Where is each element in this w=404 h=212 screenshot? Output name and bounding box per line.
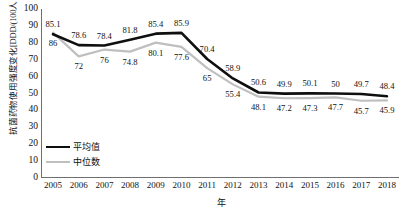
y-tick-label: 10 (12, 156, 38, 166)
y-tick-label: 60 (12, 72, 38, 82)
data-label-median: 77.6 (164, 53, 198, 62)
y-tick-label: 70 (12, 55, 38, 65)
x-axis-title: 年 (42, 196, 400, 209)
data-label-median: 74.8 (113, 58, 147, 67)
legend-line-mean-icon (46, 146, 70, 148)
data-label-median: 45.9 (370, 106, 404, 115)
antibiotic-use-intensity-line-chart: 抗菌药物使用强度变化[DDD/(100人·d)] 010203040506070… (0, 0, 404, 212)
data-label-mean: 85.1 (36, 20, 70, 29)
data-label-mean: 48.4 (370, 82, 404, 91)
data-label-median: 65 (190, 74, 224, 83)
data-label-mean: 58.9 (216, 64, 250, 73)
chart-legend: 平均值 中位数 (46, 139, 100, 169)
x-tick-label: 2018 (367, 180, 404, 190)
y-tick-label: 100 (12, 4, 38, 14)
y-tick-label: 80 (12, 38, 38, 48)
y-tick-label: 30 (12, 122, 38, 132)
y-tick-label: 50 (12, 89, 38, 99)
data-label-median: 55.4 (216, 90, 250, 99)
legend-item-median: 中位数 (46, 154, 100, 169)
data-label-median: 86 (36, 39, 70, 48)
y-tick-label: 20 (12, 139, 38, 149)
y-tick-label: 40 (12, 105, 38, 115)
legend-label-mean: 平均值 (73, 140, 100, 153)
y-tick-label: 90 (12, 21, 38, 31)
legend-line-median-icon (46, 161, 70, 163)
legend-label-median: 中位数 (73, 155, 100, 168)
legend-item-mean: 平均值 (46, 139, 100, 154)
data-label-mean: 85.9 (164, 19, 198, 28)
